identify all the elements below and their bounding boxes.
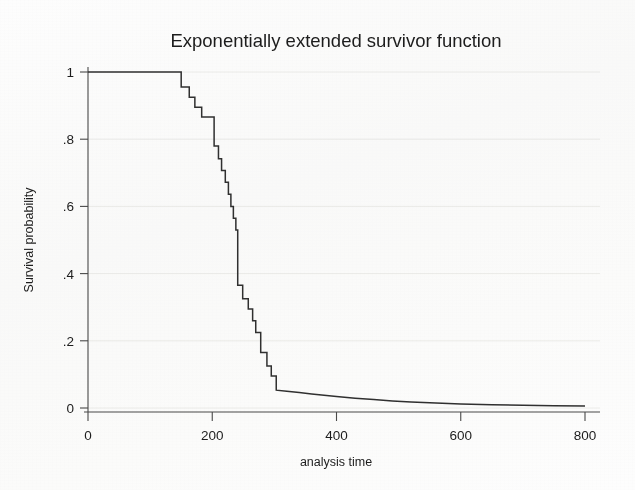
y-tick-label: .8 xyxy=(63,132,74,147)
y-tick-label: .2 xyxy=(63,334,74,349)
y-tick-label: 1 xyxy=(66,65,74,80)
x-tick-label: 200 xyxy=(201,428,224,443)
x-tick-label: 400 xyxy=(325,428,348,443)
x-tick-label: 600 xyxy=(449,428,472,443)
y-tick-label: .6 xyxy=(63,199,74,214)
chart-canvas: Exponentially extended survivor function… xyxy=(0,0,635,490)
y-axis-title: Survival probability xyxy=(22,187,36,293)
y-axis-ticks: 0.2.4.6.81 xyxy=(63,65,88,416)
x-tick-label: 800 xyxy=(574,428,597,443)
x-axis-ticks: 0200400600800 xyxy=(84,412,596,443)
x-axis-title: analysis time xyxy=(300,455,372,469)
y-tick-label: .4 xyxy=(63,267,75,282)
chart-title: Exponentially extended survivor function xyxy=(170,30,501,51)
survivor-curve xyxy=(88,72,585,406)
y-tick-label: 0 xyxy=(66,401,74,416)
x-tick-label: 0 xyxy=(84,428,92,443)
gridlines xyxy=(88,72,600,408)
survivor-function-figure: Exponentially extended survivor function… xyxy=(0,0,635,490)
